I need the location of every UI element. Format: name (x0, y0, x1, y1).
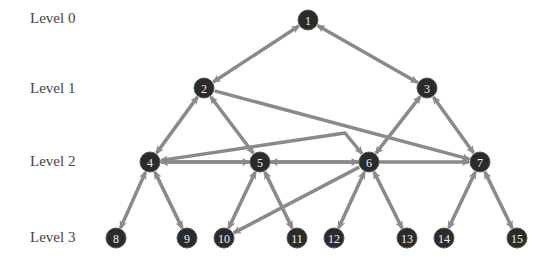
node-11: 11 (287, 228, 307, 248)
edge-1-3 (318, 25, 418, 82)
node-label: 7 (477, 156, 483, 170)
node-label: 11 (291, 232, 303, 246)
node-9: 9 (177, 228, 197, 248)
node-label: 4 (147, 156, 153, 170)
node-label: 6 (366, 156, 372, 170)
node-7: 7 (470, 152, 490, 172)
node-label: 15 (511, 232, 523, 246)
edge-5-11 (265, 172, 292, 228)
node-15: 15 (507, 228, 527, 248)
edge-2-4 (156, 97, 197, 153)
edge-6-13 (374, 172, 402, 228)
edge-5-10 (229, 172, 256, 228)
nodes-layer: 123456789101112131415 (106, 10, 527, 248)
edge-1-2 (213, 26, 299, 82)
node-2: 2 (194, 78, 214, 98)
node-label: 13 (401, 232, 413, 246)
node-14: 14 (434, 228, 454, 248)
node-label: 14 (438, 232, 450, 246)
node-13: 13 (397, 228, 417, 248)
edge-4-9 (155, 172, 182, 228)
edge-2-5 (211, 97, 254, 153)
node-label: 8 (113, 232, 119, 246)
edge-4-8 (120, 172, 145, 228)
tree-graph: 123456789101112131415 (0, 0, 555, 263)
node-3: 3 (417, 78, 437, 98)
edge-2-7 (215, 91, 470, 159)
edges-layer (120, 25, 512, 232)
node-label: 3 (424, 82, 430, 96)
edge-3-7 (433, 97, 473, 153)
node-label: 2 (201, 82, 207, 96)
node-5: 5 (250, 152, 270, 172)
node-12: 12 (324, 228, 344, 248)
edge-6-12 (339, 172, 365, 228)
node-label: 9 (184, 232, 190, 246)
node-label: 5 (257, 156, 263, 170)
edge-7-15 (485, 172, 512, 228)
node-4: 4 (140, 152, 160, 172)
node-6: 6 (359, 152, 379, 172)
node-10: 10 (214, 228, 234, 248)
node-label: 12 (328, 232, 340, 246)
node-label: 1 (305, 14, 311, 28)
node-1: 1 (298, 10, 318, 30)
edge-7-14 (449, 172, 476, 228)
node-8: 8 (106, 228, 126, 248)
node-label: 10 (218, 232, 230, 246)
